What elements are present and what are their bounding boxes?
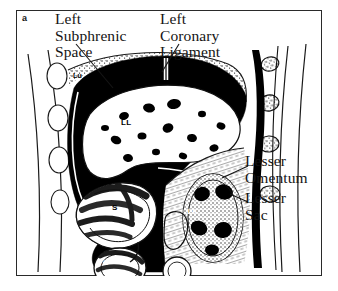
callout-left-coronary-ligament: Left Coronary Ligament [160,11,220,61]
costal-cartilage-group [47,63,69,214]
abbr-left-kidney: LK [187,207,198,216]
callout-lesser-sac: Lesser Sac [245,190,286,223]
abbr-pancreas: P [155,222,160,231]
abbr-lung: Lu [73,72,82,79]
abbr-duodenum: D [156,258,162,267]
callout-left-subphrenic-space: Left Subphrenic Space [55,11,127,61]
abbr-transverse-colon: TC [98,258,109,267]
abbr-stomach: S [112,203,118,212]
figure-root: a [0,0,338,291]
abbr-left-lobe-liver: LL [121,118,131,127]
callout-lesser-omentum: Lesser Omentum [245,153,308,186]
